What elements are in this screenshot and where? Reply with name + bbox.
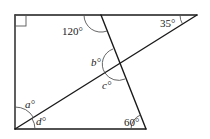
arc-35 xyxy=(180,15,183,24)
arc-d xyxy=(32,119,35,130)
geometry-diagram: 120° 35° b° c° a° d° 60° xyxy=(0,0,210,139)
label-60: 60° xyxy=(124,117,139,128)
label-35: 35° xyxy=(160,18,175,29)
diagram-canvas xyxy=(0,0,210,139)
label-b: b° xyxy=(91,57,101,68)
label-a: a° xyxy=(25,99,35,110)
arc-120 xyxy=(84,15,107,32)
label-c: c° xyxy=(102,80,111,91)
right-angle-marker xyxy=(15,15,26,26)
label-120: 120° xyxy=(62,26,83,37)
transversal-diagonal xyxy=(15,15,197,129)
label-d: d° xyxy=(36,116,46,127)
transversal-steep xyxy=(101,15,146,129)
